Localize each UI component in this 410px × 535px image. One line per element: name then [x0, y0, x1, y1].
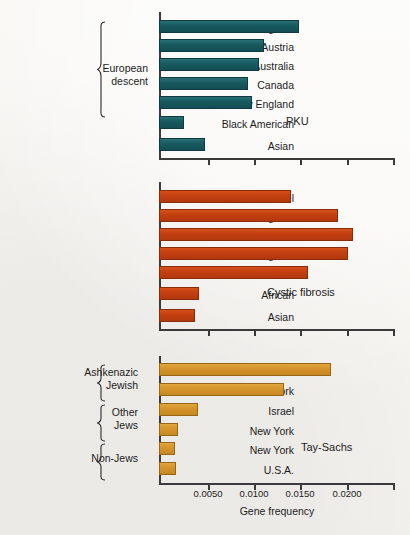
x-tick-2-cf	[254, 330, 256, 336]
bar-cf-australia	[159, 228, 353, 241]
x-axis-line-ts	[159, 483, 395, 485]
group-label-european-descent: European descent	[102, 62, 148, 87]
gene-frequency-figure: European descent England Austria Austral…	[0, 0, 410, 535]
x-tick-3-pku	[300, 159, 302, 165]
group-label-line1: Ashkenazic	[84, 366, 138, 379]
bar-ts-usa-non-jews	[159, 462, 176, 475]
group-label-line2: descent	[102, 75, 148, 88]
group-label-other-jews: Other Jews	[112, 406, 138, 431]
x-tick-3-cf	[300, 330, 302, 336]
bar-ts-new-york-ashkenazic	[159, 383, 284, 396]
panel-pku: European descent England Austria Austral…	[0, 0, 410, 170]
x-tick-1-pku	[208, 159, 210, 165]
x-tick-2-pku	[254, 159, 256, 165]
panel-note-tay-sachs: Tay-Sachs	[301, 441, 352, 453]
bar-cf-ohio	[159, 266, 308, 279]
bar-pku-england	[159, 20, 299, 33]
x-tick-5-cf	[393, 330, 395, 336]
group-label-line1: European	[102, 62, 148, 75]
panel-note-cystic-fibrosis: Cystic fibrosis	[267, 286, 335, 298]
bar-ts-new-york-non-jews	[159, 442, 175, 455]
bar-ts-israel-ashkenazic	[159, 363, 331, 376]
bar-ts-new-york-other-jews	[159, 423, 178, 436]
bar-pku-canada	[159, 77, 248, 90]
bar-pku-asian	[159, 138, 205, 151]
group-label-line2: Jews	[112, 419, 138, 432]
x-tick-5-pku	[393, 159, 395, 165]
plot-area-tay-sachs: Tay-Sachs 0.0050 0.0100 0.0150 0.0200 Ge…	[159, 342, 395, 535]
x-tick-4-cf	[347, 330, 349, 336]
brace-ashkenazic-jewish	[96, 364, 106, 402]
panel-tay-sachs: Ashkenazic Jewish Other Jews Non-Jews Is…	[0, 342, 410, 535]
x-tick-label-0100: 0.0100	[239, 488, 268, 499]
panel-note-pku: PKU	[286, 115, 309, 127]
group-label-line1: Other	[112, 406, 138, 419]
x-axis-title: Gene frequency	[240, 505, 315, 517]
bar-ts-israel-other-jews	[159, 403, 198, 416]
bar-pku-black-american	[159, 116, 184, 129]
x-tick-4-pku	[347, 159, 349, 165]
x-axis-line-cf	[159, 329, 395, 331]
panel-cystic-fibrosis: Israel England Australia New England Ohi…	[0, 170, 410, 342]
bar-pku-austria	[159, 39, 264, 52]
x-tick-label-0050: 0.0050	[193, 488, 222, 499]
bar-pku-new-england	[159, 96, 252, 109]
x-tick-label-0200: 0.0200	[332, 488, 361, 499]
bar-cf-asian	[159, 309, 195, 322]
bar-cf-israel	[159, 190, 291, 203]
plot-area-pku: PKU	[159, 0, 395, 170]
bar-pku-australia	[159, 58, 259, 71]
bar-cf-new-england	[159, 247, 348, 260]
x-tick-1-cf	[208, 330, 210, 336]
x-tick-label-0150: 0.0150	[285, 488, 314, 499]
plot-area-cystic-fibrosis: Cystic fibrosis	[159, 170, 395, 342]
bar-cf-england	[159, 209, 338, 222]
group-label-line2: Jewish	[84, 379, 138, 392]
bar-cf-african	[159, 287, 199, 300]
brace-other-jews	[96, 404, 106, 442]
group-label-ashkenazic-jewish: Ashkenazic Jewish	[84, 366, 138, 391]
brace-european-descent	[96, 21, 106, 118]
x-tick-5-ts	[393, 484, 395, 490]
x-axis-line-pku	[159, 158, 395, 160]
brace-non-jews	[96, 443, 106, 481]
